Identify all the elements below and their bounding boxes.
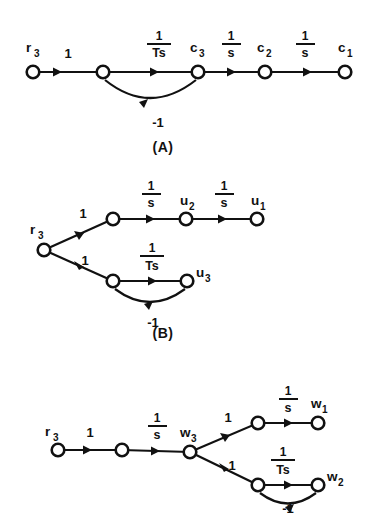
node-b-nb2 [107, 275, 120, 288]
gain-label-c-feedback: -1 [282, 501, 294, 516]
node-w2 [312, 479, 325, 492]
node-label-u3-sub: 3 [205, 273, 211, 284]
node-label-c3-sub: 3 [199, 48, 205, 59]
node-b-r3 [38, 244, 51, 257]
gain-label-a-frac3-num: 1 [302, 29, 309, 43]
gain-label-c-frac1-num: 1 [154, 411, 161, 425]
arrowhead-c-nc2-w1 [284, 419, 293, 428]
gain-label-a-frac3-den: s [302, 46, 309, 60]
gain-label-b-up: 1 [79, 206, 86, 221]
graph-c: r 3 w 3 w 1 w 2 1 1 s 1 1 1 s 1 Ts -1 [45, 384, 344, 516]
node-c-nc1 [116, 444, 129, 457]
gain-label-c-frac2-num: 1 [285, 384, 292, 398]
node-c3 [192, 66, 205, 79]
graph-a: r 3 c 3 c 2 c 1 1 1 Ts 1 s 1 s -1 (A) [26, 29, 353, 155]
node-a-n1 [97, 66, 110, 79]
gain-label-a-feedback: -1 [152, 115, 164, 130]
gain-label-b-frac2-num: 1 [221, 179, 228, 193]
node-c-nc3 [252, 479, 265, 492]
node-label-w1-sub: 1 [322, 404, 328, 415]
signal-flow-graph-figure: r 3 c 3 c 2 c 1 1 1 Ts 1 s 1 s -1 (A) [0, 0, 374, 520]
node-label-c3: c [190, 40, 198, 55]
node-label-c-r3: r [45, 424, 51, 439]
arrowhead-b-nb1-u2 [146, 215, 155, 224]
gain-label-c-frac2-den: s [285, 401, 292, 415]
node-label-u1: u [251, 193, 259, 208]
node-label-c1: c [338, 40, 346, 55]
arrowhead-b-u2-u1 [218, 215, 227, 224]
node-label-u2: u [180, 193, 188, 208]
node-u3 [181, 275, 194, 288]
gain-label-c-up: 1 [224, 410, 231, 425]
gain-label-b-frac3-num: 1 [149, 241, 156, 255]
node-label-u3: u [196, 265, 204, 280]
gain-label-b-down: 1 [81, 253, 88, 268]
node-label-u1-sub: 1 [260, 201, 266, 212]
node-label-w3-sub: 3 [191, 433, 197, 444]
gain-label-a-frac1-num: 1 [156, 29, 163, 43]
arrowhead-c-nc3-w2 [284, 481, 293, 490]
node-u2 [180, 213, 193, 226]
node-label-w2-sub: 2 [338, 477, 344, 488]
arrowhead-r3-n1 [53, 68, 62, 77]
node-label-u2-sub: 2 [189, 201, 195, 212]
node-label-w2: w [326, 469, 338, 484]
node-c1 [339, 66, 352, 79]
gain-label-a-frac2-num: 1 [228, 29, 235, 43]
arrowhead-c3-c2 [227, 68, 236, 77]
node-label-w3: w [179, 425, 191, 440]
node-label-r3-sub: 3 [34, 48, 40, 59]
edge-feedback-c3-n1 [105, 80, 196, 98]
arrowhead-b-nb2-u3 [148, 277, 157, 286]
arrowhead-c-nc1-w3 [151, 447, 160, 456]
node-label-r3: r [26, 40, 32, 55]
node-w3 [184, 446, 197, 459]
graph-b: r 3 u 2 u 1 u 3 1 1 1 s 1 s 1 Ts -1 (B) [30, 179, 266, 341]
node-label-c-r3-sub: 3 [53, 432, 59, 443]
caption-a: (A) [153, 139, 174, 155]
gain-label-a-1: 1 [64, 46, 71, 61]
gain-label-c-down: 1 [228, 458, 235, 473]
arrowhead-feedback-a [139, 99, 148, 108]
gain-label-c-1: 1 [86, 425, 93, 440]
node-c-nc2 [252, 417, 265, 430]
node-label-b-r3-sub: 3 [38, 230, 44, 241]
arrowhead-c2-c1 [303, 68, 312, 77]
node-b-nb1 [107, 213, 120, 226]
arrowhead-n1-c3 [150, 68, 159, 77]
node-label-c2: c [257, 40, 265, 55]
edge-b-feedback [115, 289, 185, 302]
gain-label-c-frac1-den: s [154, 428, 161, 442]
arrowhead-c-r3-nc1 [83, 446, 92, 455]
node-r3 [27, 66, 40, 79]
node-u1 [251, 213, 264, 226]
node-c2 [259, 66, 272, 79]
gain-label-b-frac3-den: Ts [145, 259, 159, 273]
caption-b: (B) [153, 325, 174, 341]
node-c-r3 [52, 444, 65, 457]
node-label-w1: w [310, 396, 322, 411]
gain-label-b-frac2-den: s [221, 196, 228, 210]
node-label-b-r3: r [30, 222, 36, 237]
node-label-c1-sub: 1 [347, 48, 353, 59]
gain-label-a-frac1-den: Ts [152, 46, 166, 60]
gain-label-c-frac3-num: 1 [280, 445, 287, 459]
gain-label-b-frac1-den: s [148, 196, 155, 210]
node-w1 [312, 417, 325, 430]
gain-label-a-frac2-den: s [228, 46, 235, 60]
gain-label-b-frac1-num: 1 [148, 179, 155, 193]
gain-label-c-frac3-den: Ts [276, 463, 290, 477]
node-label-c2-sub: 2 [266, 48, 272, 59]
